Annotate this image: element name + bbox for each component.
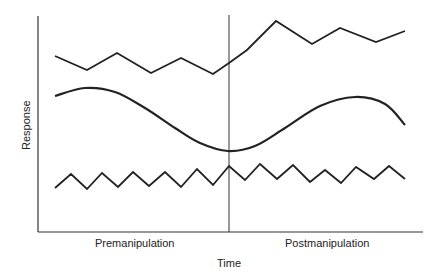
x-axis-label: Time bbox=[217, 257, 241, 269]
series-top-zigzag bbox=[55, 21, 405, 74]
series-bottom-zigzag bbox=[55, 164, 405, 189]
phase-label-postmanipulation: Postmanipulation bbox=[285, 237, 369, 249]
phase-label-premanipulation: Premanipulation bbox=[95, 237, 175, 249]
series-smooth-curve bbox=[55, 88, 405, 151]
chart-plot-area bbox=[0, 0, 441, 278]
y-axis-label: Response bbox=[20, 100, 32, 150]
